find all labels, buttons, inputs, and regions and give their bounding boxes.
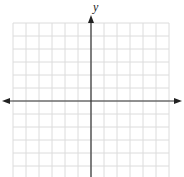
y-axis-label: y: [93, 0, 98, 15]
x-axis-right-arrow-icon: [174, 98, 182, 104]
coordinate-plane: [0, 0, 184, 177]
x-axis-left-arrow-icon: [2, 98, 10, 104]
y-axis-up-arrow-icon: [88, 15, 94, 23]
